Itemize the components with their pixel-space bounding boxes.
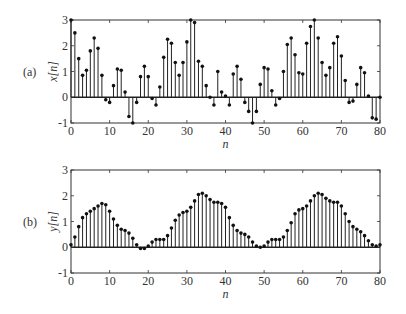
stem-marker bbox=[143, 247, 147, 251]
stem-marker bbox=[166, 234, 170, 238]
stem-marker bbox=[189, 206, 193, 210]
stem-marker bbox=[189, 18, 193, 22]
stem-marker bbox=[224, 94, 228, 98]
x-tick-label: 10 bbox=[104, 124, 116, 138]
stem-marker bbox=[309, 25, 313, 29]
x-tick-label: 0 bbox=[68, 274, 74, 288]
x-tick-label: 30 bbox=[181, 274, 193, 288]
x-tick-label: 80 bbox=[374, 124, 386, 138]
stem-marker bbox=[231, 224, 235, 228]
stem-marker bbox=[343, 79, 347, 83]
stem-marker bbox=[104, 98, 108, 102]
stem-marker bbox=[235, 229, 239, 233]
stem-marker bbox=[208, 198, 212, 202]
stem-marker bbox=[96, 47, 100, 51]
stem-marker bbox=[173, 218, 177, 222]
stem-marker bbox=[201, 191, 205, 195]
stem-marker bbox=[316, 36, 320, 40]
stem-marker bbox=[146, 244, 150, 248]
stem-marker bbox=[108, 101, 112, 105]
stem-marker bbox=[228, 103, 232, 107]
stem-marker bbox=[170, 41, 174, 45]
stem-marker bbox=[166, 38, 170, 42]
stem-marker bbox=[301, 72, 305, 76]
stem-marker bbox=[243, 101, 247, 105]
stem-marker bbox=[127, 115, 131, 119]
stem-marker bbox=[374, 117, 378, 121]
x-tick-label: 20 bbox=[142, 124, 154, 138]
panel-label: (b) bbox=[23, 215, 37, 229]
stem-marker bbox=[162, 56, 166, 60]
stem-marker bbox=[324, 74, 328, 78]
stem-marker bbox=[289, 221, 293, 225]
stem-marker bbox=[336, 35, 340, 39]
stem-marker bbox=[92, 207, 96, 211]
x-tick-label: 30 bbox=[181, 124, 193, 138]
y-axis-label: x[n] bbox=[46, 61, 60, 83]
stem-marker bbox=[274, 103, 278, 107]
stem-marker bbox=[201, 65, 205, 69]
stem-marker bbox=[228, 216, 232, 220]
x-axis-label: n bbox=[223, 137, 229, 151]
stem-marker bbox=[154, 238, 158, 242]
x-tick-label: 20 bbox=[142, 274, 154, 288]
stem-marker bbox=[150, 97, 154, 101]
stem-marker bbox=[355, 227, 359, 231]
stem-marker bbox=[378, 95, 382, 99]
stem-marker bbox=[293, 212, 297, 216]
stem-marker bbox=[204, 84, 208, 88]
stem-marker bbox=[220, 90, 224, 94]
stem-marker bbox=[266, 240, 270, 244]
stem-marker bbox=[143, 65, 147, 69]
x-axis-label: n bbox=[223, 287, 229, 301]
stem-marker bbox=[158, 85, 162, 89]
stem-marker bbox=[367, 94, 371, 98]
stem-marker bbox=[328, 199, 332, 203]
x-tick-label: 80 bbox=[374, 274, 386, 288]
y-axis-label: y[n] bbox=[46, 211, 60, 233]
stem-marker bbox=[258, 245, 262, 249]
stem-marker bbox=[340, 204, 344, 208]
stem-marker bbox=[320, 193, 324, 197]
stem-marker bbox=[208, 95, 212, 99]
stem-marker bbox=[278, 97, 282, 101]
stem-marker bbox=[347, 101, 351, 105]
x-tick-label: 70 bbox=[335, 124, 347, 138]
stem-marker bbox=[100, 202, 104, 206]
stem-marker bbox=[305, 41, 309, 45]
stem-marker bbox=[235, 65, 239, 69]
y-tick-label: 3 bbox=[62, 163, 68, 177]
stem-marker bbox=[255, 110, 259, 114]
stem-marker bbox=[185, 209, 189, 213]
stem-marker bbox=[119, 68, 123, 72]
y-tick-label: 1 bbox=[62, 215, 68, 229]
stem-marker bbox=[347, 220, 351, 224]
stem-marker bbox=[247, 235, 251, 239]
stem-marker bbox=[282, 70, 286, 74]
stem-marker bbox=[320, 61, 324, 65]
stem-marker bbox=[332, 41, 336, 45]
x-tick-label: 60 bbox=[297, 274, 309, 288]
stem-marker bbox=[135, 101, 139, 105]
stem-marker bbox=[262, 244, 266, 248]
stem-marker bbox=[378, 243, 382, 247]
stem-marker bbox=[123, 90, 127, 94]
stem-marker bbox=[212, 103, 216, 107]
stem-marker bbox=[92, 36, 96, 40]
stem-marker bbox=[89, 209, 93, 213]
stem-marker bbox=[146, 75, 150, 79]
stem-marker bbox=[181, 61, 185, 65]
stem-marker bbox=[135, 243, 139, 247]
stem-marker bbox=[367, 239, 371, 243]
stem-marker bbox=[309, 199, 313, 203]
stem-marker bbox=[224, 206, 228, 210]
stem-marker bbox=[112, 217, 116, 221]
stem-marker bbox=[324, 197, 328, 201]
stem-marker bbox=[262, 66, 266, 70]
stem-marker bbox=[239, 231, 243, 235]
stem-marker bbox=[270, 89, 274, 93]
x-tick-label: 0 bbox=[68, 124, 74, 138]
stem-marker bbox=[139, 75, 143, 79]
x-tick-label: 50 bbox=[258, 124, 270, 138]
stem-marker bbox=[197, 193, 201, 197]
